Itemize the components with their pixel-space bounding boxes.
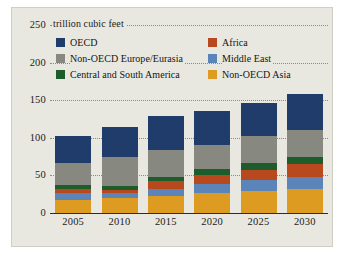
bar-stack	[287, 94, 323, 213]
legend-item-non-oecd-asia[interactable]: Non-OECD Asia	[208, 66, 322, 82]
bar-segment-non-oecd-asia-2020[interactable]	[194, 193, 230, 213]
chart-panel: 050100150200250 trillion cubic feet 2005…	[11, 7, 333, 247]
bar-segment-africa-2020[interactable]	[194, 175, 230, 185]
bar-group-2015[interactable]	[148, 116, 184, 213]
legend-label: Middle East	[222, 53, 273, 64]
legend-label: Africa	[222, 37, 250, 48]
legend-item-oecd[interactable]: OECD	[56, 34, 208, 50]
bar-segment-middle-east-2005[interactable]	[55, 193, 91, 200]
bar-group-2010[interactable]	[102, 127, 138, 213]
bar-segment-non-oecd-europe-eurasia-2010[interactable]	[102, 157, 138, 186]
y-tick-label-200: 200	[12, 58, 46, 68]
bar-stack	[194, 111, 230, 213]
bar-group-2020[interactable]	[194, 111, 230, 213]
bar-group-2005[interactable]	[55, 136, 91, 213]
legend-swatch-icon	[56, 54, 65, 63]
y-tick-label-100: 100	[12, 133, 46, 143]
legend-swatch-icon	[208, 70, 217, 79]
bar-segment-middle-east-2020[interactable]	[194, 184, 230, 193]
bar-segment-oecd-2025[interactable]	[241, 103, 277, 137]
bar-segment-africa-2015[interactable]	[148, 181, 184, 189]
legend-swatch-icon	[56, 38, 65, 47]
bar-group-2030[interactable]	[287, 94, 323, 213]
bar-segment-central-and-south-america-2030[interactable]	[287, 157, 323, 164]
bar-segment-non-oecd-asia-2030[interactable]	[287, 189, 323, 213]
legend-label: Non-OECD Europe/Eurasia	[70, 53, 185, 64]
bar-segment-middle-east-2030[interactable]	[287, 177, 323, 189]
legend-item-central-and-south-america[interactable]: Central and South America	[56, 66, 208, 82]
y-tick-label-0: 0	[12, 208, 46, 218]
bar-segment-non-oecd-asia-2025[interactable]	[241, 191, 277, 213]
bar-segment-oecd-2010[interactable]	[102, 127, 138, 157]
bar-segment-non-oecd-asia-2010[interactable]	[102, 198, 138, 213]
bar-segment-non-oecd-asia-2005[interactable]	[55, 200, 91, 213]
legend-item-non-oecd-europe-eurasia[interactable]: Non-OECD Europe/Eurasia	[56, 50, 208, 66]
bar-stack	[148, 116, 184, 213]
legend-item-africa[interactable]: Africa	[208, 34, 322, 50]
bar-segment-middle-east-2025[interactable]	[241, 180, 277, 191]
legend-item-middle-east[interactable]: Middle East	[208, 50, 322, 66]
y-tick-label-250: 250	[12, 20, 46, 30]
bar-segment-oecd-2030[interactable]	[287, 94, 323, 129]
bar-segment-central-and-south-america-2025[interactable]	[241, 163, 277, 171]
bar-stack	[102, 127, 138, 213]
bar-segment-non-oecd-asia-2015[interactable]	[148, 196, 184, 213]
bar-segment-non-oecd-europe-eurasia-2030[interactable]	[287, 130, 323, 158]
bar-segment-oecd-2015[interactable]	[148, 116, 184, 150]
bar-stack	[241, 103, 277, 213]
bar-segment-non-oecd-europe-eurasia-2020[interactable]	[194, 145, 230, 170]
legend-label: OECD	[70, 37, 99, 48]
legend-swatch-icon	[208, 38, 217, 47]
bar-segment-africa-2025[interactable]	[241, 170, 277, 180]
legend-column-left: OECDNon-OECD Europe/EurasiaCentral and S…	[56, 34, 208, 82]
bar-stack	[55, 136, 91, 213]
y-tick-label-150: 150	[12, 95, 46, 105]
bar-segment-non-oecd-europe-eurasia-2005[interactable]	[55, 163, 91, 185]
legend-label: Non-OECD Asia	[222, 69, 293, 80]
chart-figure: 050100150200250 trillion cubic feet 2005…	[0, 0, 341, 254]
legend-swatch-icon	[208, 54, 217, 63]
legend-swatch-icon	[56, 70, 65, 79]
x-axis-line	[50, 213, 328, 214]
legend-label: Central and South America	[70, 69, 182, 80]
bar-segment-oecd-2005[interactable]	[55, 136, 91, 164]
bar-segment-africa-2030[interactable]	[287, 164, 323, 177]
x-tick-label-2030: 2030	[278, 216, 332, 227]
bar-group-2025[interactable]	[241, 103, 277, 213]
bar-segment-middle-east-2015[interactable]	[148, 189, 184, 196]
bar-segment-non-oecd-europe-eurasia-2025[interactable]	[241, 136, 277, 162]
bar-segment-non-oecd-europe-eurasia-2015[interactable]	[148, 150, 184, 177]
bar-segment-oecd-2020[interactable]	[194, 111, 230, 145]
legend-column-right: AfricaMiddle EastNon-OECD Asia	[208, 34, 322, 82]
chart-legend: OECDNon-OECD Europe/EurasiaCentral and S…	[56, 34, 322, 82]
y-tick-label-50: 50	[12, 170, 46, 180]
